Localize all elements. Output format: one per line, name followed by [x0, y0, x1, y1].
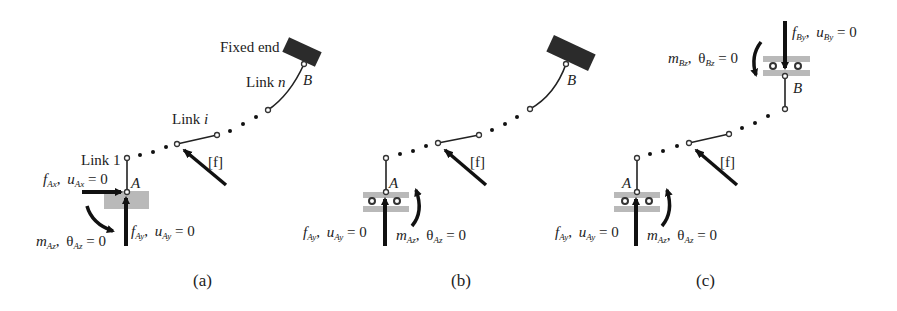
- ellipsis-dots-upper: [228, 115, 258, 133]
- fay-label: fAy, uAy = 0: [555, 224, 619, 242]
- pin-a: [384, 190, 389, 195]
- load-label: [f]: [470, 154, 485, 170]
- link-i: [177, 135, 217, 144]
- point-a-label: A: [130, 175, 141, 191]
- link-i-label: Link i: [172, 111, 208, 127]
- pin-b: [564, 62, 569, 67]
- maz-label: mAz, θAz = 0: [36, 233, 106, 251]
- pin-b: [783, 74, 788, 79]
- load-label: [f]: [208, 154, 223, 170]
- fay-label: fAy, uAy = 0: [303, 224, 367, 242]
- link-n: [530, 64, 566, 109]
- ellipsis-dots-lower: [138, 145, 168, 157]
- panel-b: B [f] A fAy, uAy = 0: [303, 35, 596, 290]
- caption-a: (a): [193, 271, 212, 290]
- pin-link-i-start: [436, 141, 441, 146]
- pin-link-n-end: [528, 107, 533, 112]
- link-i: [438, 135, 479, 143]
- moment-mbz-arrow: [754, 42, 761, 75]
- point-b-label: B: [793, 80, 802, 96]
- pin-a: [635, 190, 640, 195]
- pin-link-i-start: [687, 141, 692, 146]
- mbz-label: mBz, θBz = 0: [668, 50, 738, 68]
- fixed-end-label: Fixed end: [220, 39, 280, 55]
- pin-link-n-end: [266, 108, 271, 113]
- load-label: [f]: [720, 154, 735, 170]
- pin-a: [125, 190, 130, 195]
- maz-label: mAz, θAz = 0: [647, 227, 717, 245]
- link-i: [689, 134, 729, 143]
- link-n-label: Link n: [246, 74, 286, 90]
- pin-b: [302, 62, 307, 67]
- pin-link-1-top: [635, 156, 640, 161]
- point-a-label: A: [621, 175, 632, 191]
- fby-label: fBy, uBy = 0: [792, 24, 857, 42]
- moment-maz-arrow: [87, 206, 113, 231]
- pin-link-1-top: [384, 156, 389, 161]
- ellipsis-dots-upper: [490, 115, 519, 132]
- ellipsis-dots-lower: [648, 144, 679, 156]
- link-1-label: Link 1: [81, 152, 121, 168]
- panel-a: Fixed end Link n B Link i [f] Link 1: [36, 37, 322, 290]
- ellipsis-dots-upper: [740, 114, 770, 130]
- caption-c: (c): [696, 271, 715, 290]
- moment-maz-arrow: [662, 190, 670, 226]
- caption-b: (b): [451, 271, 471, 290]
- pin-link-i-end: [215, 133, 220, 138]
- fax-label: fAx, uAx = 0: [43, 171, 108, 189]
- point-a-label: A: [388, 175, 399, 191]
- point-b-label: B: [567, 72, 576, 88]
- fay-label: fAy, uAy = 0: [131, 223, 195, 241]
- pin-link-i-start: [175, 142, 180, 147]
- figure-canvas: Fixed end Link n B Link i [f] Link 1: [0, 0, 897, 311]
- maz-label: mAz, θAz = 0: [396, 227, 466, 245]
- panel-c: B fBy, uBy = 0 mBz, θBz = 0 [f]: [555, 21, 857, 290]
- pin-link-i-end: [727, 132, 732, 137]
- fixed-end-block: [546, 35, 595, 71]
- point-b-label: B: [303, 72, 312, 88]
- pin-link-n-end: [783, 107, 788, 112]
- pin-link-1-top: [125, 156, 130, 161]
- pin-link-i-end: [477, 133, 482, 138]
- ellipsis-dots-lower: [398, 144, 428, 156]
- moment-maz-arrow: [412, 190, 419, 226]
